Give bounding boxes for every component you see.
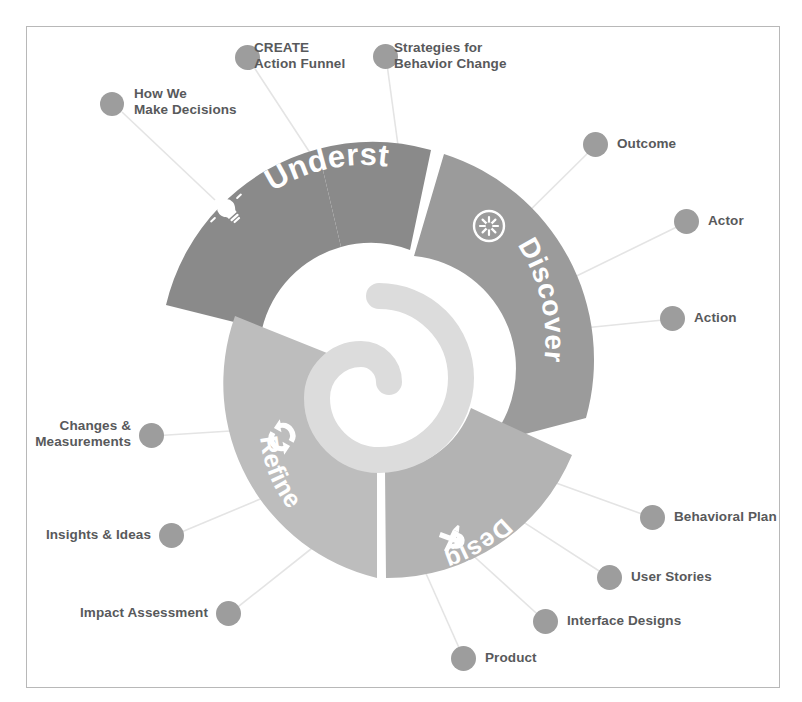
node-label-behavioral-plan: Behavioral Plan xyxy=(674,509,777,525)
node-dot-behavioral-plan[interactable] xyxy=(640,505,665,530)
node-label-changes-measurements: Changes & Measurements xyxy=(26,418,131,450)
node-dot-action[interactable] xyxy=(660,306,685,331)
node-label-strategies-for-behavior-change: Strategies for Behavior Change xyxy=(394,40,507,72)
node-label-outcome: Outcome xyxy=(617,136,676,152)
node-label-insights-ideas: Insights & Ideas xyxy=(26,527,151,543)
node-label-how-we-make-decisions: How We Make Decisions xyxy=(134,86,237,118)
node-dot-actor[interactable] xyxy=(674,209,699,234)
node-dot-product[interactable] xyxy=(451,646,476,671)
node-dot-outcome[interactable] xyxy=(583,132,608,157)
diagram-page: Understand Discover Design Refine How We… xyxy=(0,0,802,702)
node-dot-how-we-make-decisions[interactable] xyxy=(100,92,124,116)
node-dot-changes-measurements[interactable] xyxy=(139,423,164,448)
node-dot-impact-assessment[interactable] xyxy=(216,601,241,626)
node-label-impact-assessment: Impact Assessment xyxy=(26,605,208,621)
node-label-create-action-funnel: CREATE Action Funnel xyxy=(254,40,345,72)
node-dot-user-stories[interactable] xyxy=(597,565,622,590)
node-label-user-stories: User Stories xyxy=(631,569,712,585)
segment-discover[interactable] xyxy=(414,154,594,444)
node-label-action: Action xyxy=(694,310,737,326)
inner-spiral xyxy=(317,296,461,460)
node-label-interface-designs: Interface Designs xyxy=(567,613,681,629)
node-label-actor: Actor xyxy=(708,213,744,229)
node-dot-insights-ideas[interactable] xyxy=(159,523,184,548)
node-label-product: Product xyxy=(485,650,537,666)
node-dot-interface-designs[interactable] xyxy=(533,609,558,634)
